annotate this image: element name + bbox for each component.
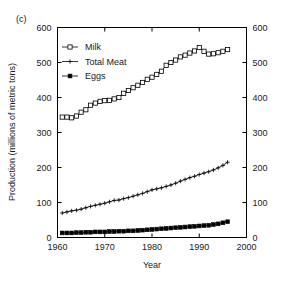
data-point-marker bbox=[136, 83, 140, 87]
data-point-marker bbox=[150, 228, 154, 232]
data-point-marker bbox=[122, 229, 126, 233]
data-point-marker bbox=[84, 230, 88, 234]
data-point-marker bbox=[169, 60, 173, 64]
data-point-marker bbox=[211, 52, 215, 56]
data-point-marker bbox=[174, 58, 178, 62]
data-point-marker bbox=[169, 226, 173, 230]
data-point-marker bbox=[174, 226, 178, 230]
data-point-marker bbox=[188, 225, 192, 229]
data-point-marker bbox=[141, 228, 145, 232]
y-tick-label-right: 600 bbox=[253, 23, 268, 33]
data-point-marker bbox=[159, 69, 163, 73]
data-point-marker bbox=[202, 49, 206, 53]
y-tick-label-left: 100 bbox=[36, 198, 51, 208]
y-tick-label-right: 500 bbox=[253, 58, 268, 68]
data-point-marker bbox=[93, 101, 97, 105]
legend-label: Eggs bbox=[85, 71, 106, 81]
data-point-marker bbox=[122, 91, 126, 95]
data-point-marker bbox=[221, 49, 225, 53]
data-point-marker bbox=[98, 99, 102, 103]
data-point-marker bbox=[136, 229, 140, 233]
data-point-marker bbox=[112, 97, 116, 101]
data-point-marker bbox=[131, 229, 135, 233]
data-point-marker bbox=[164, 227, 168, 231]
data-point-marker bbox=[164, 63, 168, 67]
data-point-marker bbox=[93, 230, 97, 234]
data-point-marker bbox=[145, 77, 149, 81]
x-tick-label: 2000 bbox=[236, 242, 256, 252]
y-tick-label-left: 600 bbox=[36, 23, 51, 33]
data-point-marker bbox=[126, 88, 130, 92]
x-tick-label: 1990 bbox=[189, 242, 209, 252]
data-point-marker bbox=[108, 230, 112, 234]
data-point-marker bbox=[183, 53, 187, 57]
data-point-marker bbox=[178, 225, 182, 229]
y-tick-label-left: 300 bbox=[36, 128, 51, 138]
y-tick-label-right: 300 bbox=[253, 128, 268, 138]
data-point-marker bbox=[60, 115, 64, 119]
y-tick-label-right: 100 bbox=[253, 198, 268, 208]
data-point-marker bbox=[216, 51, 220, 55]
data-point-marker bbox=[155, 72, 159, 76]
data-point-marker bbox=[183, 225, 187, 229]
data-point-marker bbox=[131, 86, 135, 90]
data-point-marker bbox=[70, 116, 74, 120]
data-point-marker bbox=[160, 227, 164, 231]
data-point-marker bbox=[126, 229, 130, 233]
data-point-marker bbox=[103, 230, 107, 234]
data-point-marker bbox=[107, 98, 111, 102]
x-tick-label: 1980 bbox=[142, 242, 162, 252]
y-tick-label-left: 500 bbox=[36, 58, 51, 68]
data-point-marker bbox=[150, 75, 154, 79]
data-point-marker bbox=[192, 49, 196, 53]
data-point-marker bbox=[84, 108, 88, 112]
data-point-marker bbox=[212, 223, 216, 227]
data-point-marker bbox=[202, 224, 206, 228]
y-tick-label-right: 400 bbox=[253, 93, 268, 103]
data-point-marker bbox=[117, 95, 121, 99]
x-tick-label: 1970 bbox=[95, 242, 115, 252]
x-axis-title: Year bbox=[143, 260, 161, 270]
chart-canvas: (c) 0100200300400500600 0100200300400500… bbox=[0, 0, 294, 283]
data-point-marker bbox=[145, 228, 149, 232]
data-point-marker bbox=[226, 47, 230, 51]
figure-panel-c: (c) 0100200300400500600 0100200300400500… bbox=[0, 0, 294, 283]
data-point-marker bbox=[207, 52, 211, 56]
data-point-marker bbox=[68, 74, 72, 78]
data-point-marker bbox=[221, 221, 225, 225]
data-point-marker bbox=[193, 224, 197, 228]
legend-label: Milk bbox=[85, 42, 101, 52]
y-axis-title: Production (millions of metric tons) bbox=[7, 63, 17, 201]
data-point-marker bbox=[70, 231, 74, 235]
data-point-marker bbox=[226, 220, 230, 224]
data-point-marker bbox=[112, 230, 116, 234]
y-tick-label-right: 200 bbox=[253, 163, 268, 173]
data-point-marker bbox=[197, 224, 201, 228]
data-point-marker bbox=[207, 223, 211, 227]
data-point-marker bbox=[74, 114, 78, 118]
data-point-marker bbox=[188, 51, 192, 55]
data-point-marker bbox=[98, 230, 102, 234]
legend-label: Total Meat bbox=[85, 57, 127, 67]
data-point-marker bbox=[65, 231, 69, 235]
data-point-marker bbox=[79, 231, 83, 235]
panel-label: (c) bbox=[16, 14, 27, 24]
data-point-marker bbox=[60, 231, 64, 235]
data-point-marker bbox=[88, 103, 92, 107]
data-point-marker bbox=[89, 230, 93, 234]
data-point-marker bbox=[65, 115, 69, 119]
y-tick-label-left: 200 bbox=[36, 163, 51, 173]
data-point-marker bbox=[197, 45, 201, 49]
data-point-marker bbox=[155, 227, 159, 231]
data-point-marker bbox=[75, 231, 79, 235]
data-point-marker bbox=[79, 110, 83, 114]
data-point-marker bbox=[216, 222, 220, 226]
data-point-marker bbox=[117, 229, 121, 233]
y-tick-label-left: 400 bbox=[36, 93, 51, 103]
data-point-marker bbox=[68, 45, 72, 49]
data-point-marker bbox=[178, 55, 182, 59]
data-point-marker bbox=[140, 80, 144, 84]
x-tick-label: 1960 bbox=[47, 242, 67, 252]
data-point-marker bbox=[103, 99, 107, 103]
